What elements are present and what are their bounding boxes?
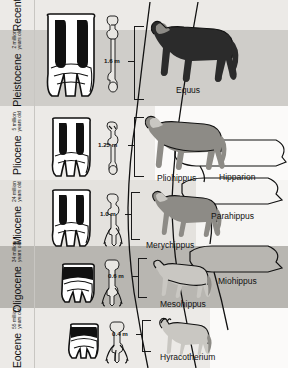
genus-label-miohippus: Miohippus — [218, 276, 257, 286]
genus-label-equus: Equus — [176, 85, 200, 95]
phylogeny-branches — [0, 0, 288, 368]
genus-label-parahippus: Parahippus — [211, 211, 254, 221]
animal-pliohippus — [142, 110, 228, 174]
genus-label-hyracotherium: Hyracotherium — [160, 352, 215, 362]
genus-label-mesohippus: Mesohippus — [160, 299, 206, 309]
horse-evolution-diagram: Recent Pleistocene 2 million years old P… — [0, 0, 288, 368]
genus-label-merychippus: Merychippus — [146, 240, 194, 250]
genus-label-pliohippus: Pliohippus — [157, 173, 196, 183]
genus-label-hipparion: Hipparion — [219, 172, 255, 182]
animal-equus — [146, 14, 242, 88]
animal-mesohippus — [152, 256, 214, 300]
animal-hyracotherium — [156, 314, 214, 356]
